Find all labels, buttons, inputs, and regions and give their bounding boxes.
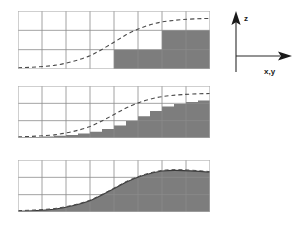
panel-medium-discretization <box>18 86 210 138</box>
terrain-discretization-figure: z x,y <box>0 0 299 227</box>
up-arrow-icon <box>231 11 240 72</box>
right-arrow-icon <box>236 51 292 60</box>
coordinate-axes-indicator <box>224 10 294 76</box>
panel-smooth-continuous <box>18 160 210 212</box>
panel-coarse-discretization <box>18 11 210 69</box>
axis-label-z: z <box>244 15 248 23</box>
axis-label-xy: x,y <box>264 68 275 76</box>
